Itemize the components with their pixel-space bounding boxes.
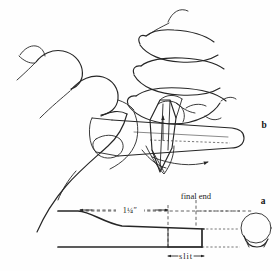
figure-root: b [0,0,280,271]
final-end-label: final end [181,191,212,201]
panel-b-hands-cutting-reed: b [17,10,267,232]
slit-label: slit [179,252,193,261]
knife-blade [146,95,182,174]
slit-dimension: slit [168,252,204,261]
panel-key-a: a [261,196,266,206]
upper-hand-fingers [127,10,236,124]
panel-a-reed-side-diagram: 1¼″ final end slit a [58,191,271,261]
length-dimension-label: 1¼″ [123,206,138,215]
lower-hand-fingers [17,46,134,118]
length-dimension: 1¼″ [80,203,168,216]
panel-key-b: b [261,120,266,130]
cane-reed [89,118,244,156]
reed-cross-section [241,213,271,247]
illustration-canvas: b [0,0,280,271]
